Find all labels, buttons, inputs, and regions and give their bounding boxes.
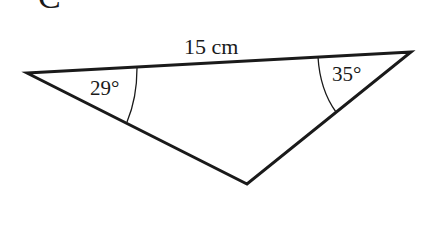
- triangle-diagram: C 15 cm 29° 35°: [0, 0, 424, 244]
- side-length-label: 15 cm: [184, 34, 238, 59]
- left-angle-label: 29°: [90, 76, 119, 100]
- figure-letter: C: [38, 0, 61, 15]
- right-angle-label: 35°: [332, 62, 361, 86]
- left-angle-arc: [127, 68, 137, 122]
